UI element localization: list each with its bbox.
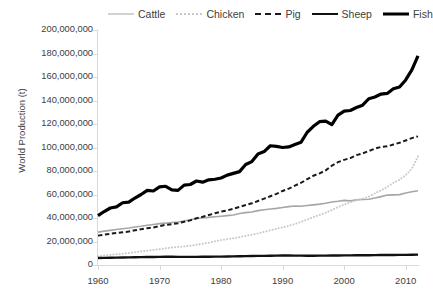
- series-canvas: [98, 30, 418, 265]
- y-tick-label: 20,000,000: [9, 237, 93, 246]
- series-line-pig: [98, 136, 418, 235]
- y-tick-mark: [93, 171, 97, 172]
- y-tick-label: 160,000,000: [9, 72, 93, 81]
- legend-swatch-sheep-icon: [312, 10, 338, 19]
- legend-item-sheep[interactable]: Sheep: [312, 9, 372, 20]
- y-tick-mark: [93, 218, 97, 219]
- x-tick-label: 2000: [334, 276, 355, 286]
- series-line-chicken: [98, 156, 418, 256]
- plot-area: [98, 30, 418, 265]
- x-axis-line: [97, 265, 419, 266]
- legend-item-chicken[interactable]: Chicken: [176, 9, 244, 20]
- x-tick-mark: [98, 266, 99, 270]
- y-tick-label: 140,000,000: [9, 96, 93, 105]
- y-tick-mark: [93, 124, 97, 125]
- series-line-cattle: [98, 191, 418, 232]
- y-tick-mark: [93, 101, 97, 102]
- x-tick-mark: [406, 266, 407, 270]
- y-tick-label: 40,000,000: [9, 213, 93, 222]
- legend-item-fish[interactable]: Fish: [383, 9, 433, 20]
- x-tick-mark: [221, 266, 222, 270]
- x-tick-label: 1970: [149, 276, 170, 286]
- series-line-fish: [98, 56, 418, 216]
- legend-swatch-chicken-icon: [176, 10, 202, 19]
- legend-swatch-pig-icon: [255, 10, 281, 19]
- y-tick-label: 120,000,000: [9, 119, 93, 128]
- x-tick-mark: [344, 266, 345, 270]
- x-tick-label: 1980: [210, 276, 231, 286]
- y-tick-label: 180,000,000: [9, 49, 93, 58]
- y-tick-mark: [93, 195, 97, 196]
- legend-label-fish: Fish: [413, 9, 433, 20]
- x-tick-label: 1990: [272, 276, 293, 286]
- x-tick-label: 2010: [395, 276, 416, 286]
- y-tick-label: 100,000,000: [9, 143, 93, 152]
- legend-swatch-fish-icon: [383, 10, 409, 19]
- y-tick-label: 200,000,000: [9, 25, 93, 34]
- y-tick-label: 80,000,000: [9, 166, 93, 175]
- y-axis-tick-labels: 020,000,00040,000,00060,000,00080,000,00…: [0, 0, 93, 293]
- legend-swatch-cattle-icon: [108, 10, 134, 19]
- series-line-sheep: [98, 255, 418, 258]
- x-tick-mark: [160, 266, 161, 270]
- y-tick-label: 60,000,000: [9, 190, 93, 199]
- legend-item-pig[interactable]: Pig: [255, 9, 300, 20]
- y-tick-mark: [93, 265, 97, 266]
- y-tick-mark: [93, 30, 97, 31]
- legend-label-cattle: Cattle: [138, 9, 165, 20]
- legend-label-pig: Pig: [285, 9, 300, 20]
- legend-label-chicken: Chicken: [206, 9, 244, 20]
- y-tick-mark: [93, 148, 97, 149]
- x-tick-mark: [283, 266, 284, 270]
- legend-item-cattle[interactable]: Cattle: [108, 9, 165, 20]
- legend-label-sheep: Sheep: [342, 9, 372, 20]
- y-tick-mark: [93, 77, 97, 78]
- x-axis-tick-labels: 196019701980199020002010: [0, 268, 432, 290]
- x-tick-label: 1960: [87, 276, 108, 286]
- y-tick-mark: [93, 242, 97, 243]
- chart-legend: Cattle Chicken Pig Sheep Fish: [108, 5, 426, 23]
- y-tick-mark: [93, 54, 97, 55]
